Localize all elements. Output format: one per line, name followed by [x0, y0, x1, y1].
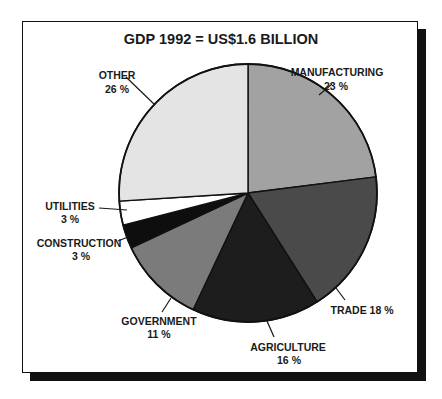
label-manufacturing-pct: 23 % [324, 80, 349, 92]
leader-line-trade [336, 288, 345, 300]
label-other-name: OTHER [99, 69, 136, 81]
label-agriculture-name: AGRICULTURE [250, 341, 326, 353]
label-trade: TRADE 18 % [330, 304, 394, 316]
label-construction-pct: 3 % [72, 250, 91, 262]
label-government-name: GOVERNMENT [121, 315, 197, 327]
label-agriculture-pct: 16 % [277, 354, 302, 366]
label-utilities-pct: 3 % [61, 213, 80, 225]
pie-slice-manufacturing [248, 64, 376, 193]
chart-title: GDP 1992 = US$1.6 BILLION [124, 31, 318, 47]
pie-chart: GDP 1992 = US$1.6 BILLION MANUFACTURING … [0, 0, 442, 399]
leader-line-other [126, 77, 155, 105]
pie-slices [119, 64, 377, 322]
label-construction-name: CONSTRUCTION [37, 237, 122, 249]
pie-slice-other [119, 64, 248, 201]
label-other-pct: 26 % [105, 83, 130, 95]
leader-line-agriculture [267, 321, 274, 337]
label-government-pct: 11 % [147, 328, 171, 340]
leader-line-government [162, 298, 171, 312]
label-manufacturing-name: MANUFACTURING [291, 66, 384, 78]
label-utilities-name: UTILITIES [45, 200, 95, 212]
